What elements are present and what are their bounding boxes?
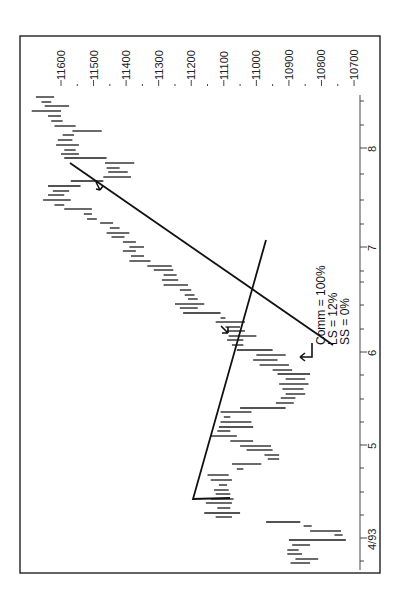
annotation: Comm = 100% LS = 12% SS = 0%: [314, 265, 352, 345]
price-tick-label: 11600: [55, 50, 67, 80]
trendlines: [70, 163, 333, 499]
price-tick-label: 10800: [315, 49, 327, 80]
price-tick-label: 11200: [185, 50, 197, 80]
price-tick-label: 11000: [250, 50, 262, 80]
range-bar-chart: 1160011500114001130011200111001100010900…: [0, 0, 407, 609]
price-tick-label: 10900: [283, 49, 295, 80]
date-tick-label: 6: [366, 350, 378, 356]
date-axis: 4/935678: [360, 95, 378, 570]
price-bars: [32, 97, 346, 563]
date-tick-label: 4/93: [366, 529, 378, 550]
lower-trendline: [193, 240, 266, 499]
price-tick-label: 11500: [88, 50, 100, 80]
price-tick-label: 10700: [348, 49, 360, 80]
date-tick-label: 7: [366, 245, 378, 251]
upper-trendline: [70, 163, 333, 345]
date-tick-label: 8: [366, 146, 378, 152]
date-tick-label: 5: [366, 443, 378, 449]
price-tick-label: 11100: [218, 51, 230, 80]
bracket-arrow-icon: [300, 343, 312, 361]
price-tick-label: 11300: [153, 50, 165, 80]
price-tick-label: 11400: [120, 50, 132, 80]
price-axis: 1160011500114001130011200111001100010900…: [55, 49, 360, 86]
annotation-ss: SS = 0%: [338, 298, 352, 345]
arrow-markers: [96, 182, 312, 361]
